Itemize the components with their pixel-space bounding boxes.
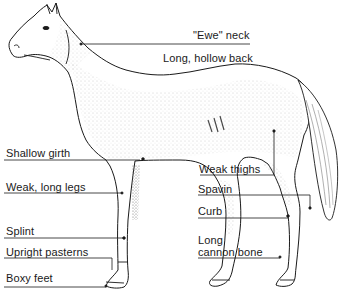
label-ewe-neck: "Ewe" neck [193,29,250,41]
label-curb: Curb [198,205,222,217]
label-long-cannon-bone-line2: cannon bone [198,246,263,258]
label-shallow-girth: Shallow girth [6,147,70,159]
label-spavin: Spavin [198,183,232,195]
label-upright-pasterns: Upright pasterns [6,246,88,258]
label-splint: Splint [6,225,34,237]
horse-conformation-diagram: "Ewe" neck Long, hollow back Shallow gir… [0,0,348,297]
label-long-cannon-bone-line1: Long [198,234,223,246]
label-long-hollow-back: Long, hollow back [163,52,253,64]
horse-hooves [106,262,294,283]
label-weak-long-legs: Weak, long legs [6,181,86,193]
label-boxy-feet: Boxy feet [6,272,53,284]
label-weak-thighs: Weak thighs [199,163,260,175]
